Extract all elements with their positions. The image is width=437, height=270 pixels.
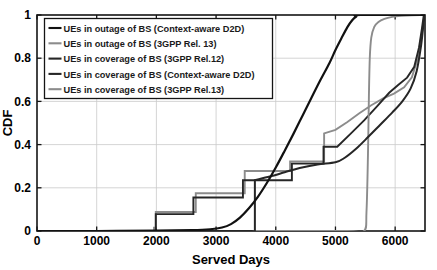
- y-tick-label: 0: [24, 224, 31, 238]
- x-axis-title: Served Days: [192, 252, 270, 267]
- x-tick-label: 0: [34, 234, 41, 248]
- legend-label-3: UEs in coverage of BS (Context-aware D2D…: [64, 70, 255, 80]
- legend-label-0: UEs in outage of BS (Context-aware D2D): [64, 24, 245, 34]
- y-axis-title: CDF: [0, 110, 15, 137]
- x-tick-label: 4000: [262, 234, 289, 248]
- x-axis-tick-labels: 0100020003000400050006000: [34, 234, 409, 248]
- legend-label-4: UEs in coverage of BS (3GPP Rel.13): [64, 85, 225, 95]
- y-tick-label: 0.2: [14, 181, 31, 195]
- x-tick-label: 1000: [83, 234, 110, 248]
- y-tick-label: 0.6: [14, 95, 31, 109]
- y-tick-label: 0.4: [14, 138, 31, 152]
- legend-label-1: UEs in outage of BS (3GPP Rel. 13): [64, 39, 217, 49]
- x-tick-label: 5000: [322, 234, 349, 248]
- y-tick-label: 0.8: [14, 51, 31, 65]
- x-tick-label: 3000: [203, 234, 230, 248]
- chart-legend: UEs in outage of BS (Context-aware D2D)U…: [45, 19, 273, 99]
- cdf-chart-figure: 0100020003000400050006000 00.20.40.60.81…: [0, 0, 437, 270]
- y-tick-label: 1: [24, 8, 31, 22]
- legend-label-2: UEs in coverage of BS (3GPP Rel.12): [64, 54, 225, 64]
- chart-canvas: 0100020003000400050006000 00.20.40.60.81…: [0, 0, 437, 270]
- x-tick-label: 6000: [382, 234, 409, 248]
- x-tick-label: 2000: [143, 234, 170, 248]
- y-axis-tick-labels: 00.20.40.60.81: [14, 8, 31, 238]
